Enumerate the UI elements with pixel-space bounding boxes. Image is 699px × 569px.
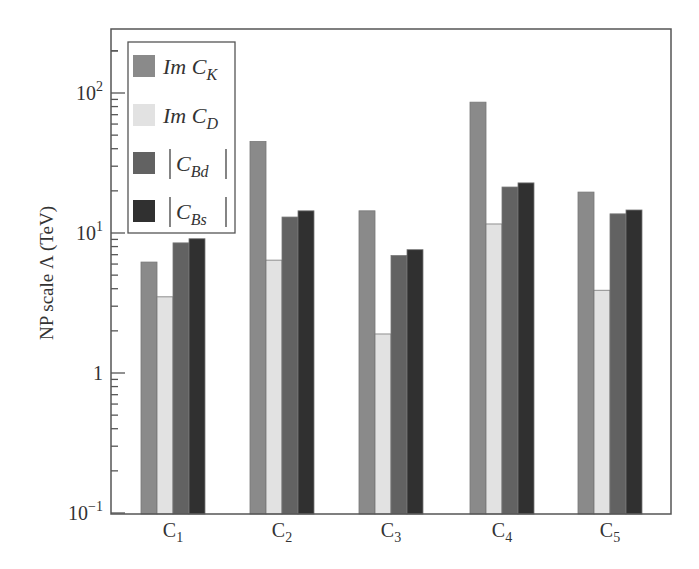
bar — [141, 262, 157, 514]
x-tick-label: C2 — [272, 519, 292, 545]
bar — [173, 243, 189, 514]
x-axis: C1C2C3C4C5 — [163, 519, 620, 545]
y-axis: 10−11101102 — [68, 51, 125, 524]
bar — [359, 211, 375, 514]
x-tick-label: C4 — [492, 519, 512, 545]
bar — [282, 217, 298, 514]
x-tick-label: C3 — [381, 519, 401, 545]
legend-swatch — [133, 152, 155, 174]
y-tick-label: 101 — [76, 219, 103, 244]
bar — [470, 102, 486, 514]
bar — [391, 256, 407, 514]
bar-group — [359, 211, 423, 514]
bar — [298, 211, 314, 514]
bar — [157, 297, 173, 514]
legend-swatch — [133, 200, 155, 222]
legend: Im CKIm CDCBdCBs — [128, 42, 235, 233]
legend-swatch — [133, 104, 155, 126]
bar — [250, 142, 266, 514]
y-tick-label: 1 — [93, 362, 103, 384]
y-tick-label: 102 — [76, 79, 103, 104]
bar — [518, 183, 534, 514]
y-tick-label: 10−1 — [68, 499, 103, 524]
bar-group — [250, 142, 314, 514]
bar — [626, 210, 642, 514]
x-tick-label: C1 — [163, 519, 183, 545]
x-tick-label: C5 — [600, 519, 620, 545]
bar — [189, 239, 205, 514]
bar — [594, 290, 610, 514]
bar — [610, 214, 626, 514]
legend-swatch — [133, 55, 155, 77]
bar — [375, 334, 391, 514]
bar — [578, 192, 594, 514]
bar-chart: 10−11101102 C1C2C3C4C5 NP scale Λ (TeV) … — [0, 0, 699, 569]
bar-group — [578, 192, 642, 514]
y-axis-label: NP scale Λ (TeV) — [36, 206, 58, 340]
bar — [266, 260, 282, 514]
bar — [486, 224, 502, 514]
bar — [502, 187, 518, 514]
bar — [407, 250, 423, 514]
bar-group — [470, 102, 534, 514]
bar-group — [141, 239, 205, 514]
